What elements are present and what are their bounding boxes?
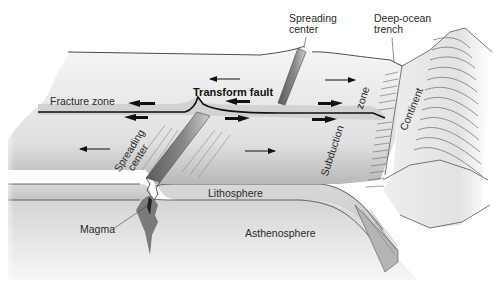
trench-leader-line [392, 38, 394, 62]
label-transform-fault: Transform fault [193, 87, 273, 99]
label-line: center [289, 24, 337, 35]
plate-tectonics-diagram: Spreading center Deep-ocean trench Fract… [0, 0, 494, 281]
label-fracture-zone: Fracture zone [50, 96, 115, 107]
label-deep-ocean-trench: Deep-ocean trench [374, 13, 431, 35]
label-magma: Magma [80, 224, 115, 235]
label-asthenosphere: Asthenosphere [245, 228, 316, 239]
label-spreading-center-top: Spreading center [289, 13, 337, 35]
label-lithosphere: Lithosphere [208, 188, 263, 199]
label-line: trench [374, 24, 431, 35]
